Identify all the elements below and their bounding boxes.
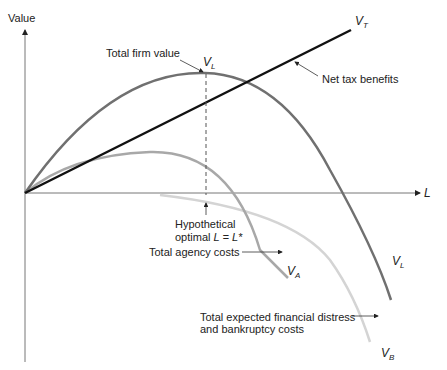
y-axis-label: Value [8,12,35,25]
optimal-label-2: optimal L = L* [175,231,242,244]
vt-symbol: VT [355,14,368,30]
va-symbol: VA [287,264,300,280]
vt-line [25,30,351,193]
vt-label: Net tax benefits [322,73,398,86]
va-label: Total agency costs [149,246,240,259]
tax-arrow [295,62,318,76]
vl-symbol-bottom: VL [392,254,404,270]
vb-symbol: VB [381,346,394,362]
x-axis-label: L [424,186,431,200]
firm-value-arrow [180,60,203,72]
vl-label: Total firm value [106,47,180,60]
optimal-label-1: Hypothetical [175,218,236,231]
vl-curve [25,73,391,300]
vb-label-2: and bankruptcy costs [200,323,304,336]
va-curve [25,152,288,278]
vl-symbol-top: VL [203,55,215,71]
